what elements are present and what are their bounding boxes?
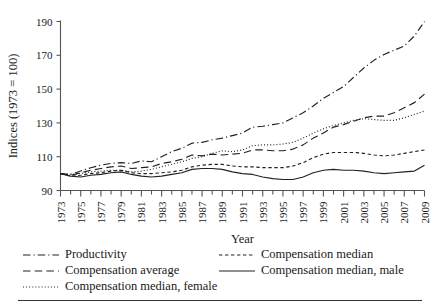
x-tick-label: 1983 [156, 201, 168, 224]
y-axis-title: Indices (1973 = 100) [6, 54, 20, 159]
y-tick-label: 190 [36, 16, 53, 28]
legend-swatch-icon [218, 249, 256, 261]
legend-item-label: Compensation average [65, 264, 179, 277]
y-tick-label: 130 [36, 117, 53, 129]
legend-item[interactable]: Compensation median [218, 247, 432, 262]
legend-item-label: Compensation median [261, 248, 373, 261]
footer-rule [18, 300, 422, 301]
x-tick-label: 1997 [297, 201, 309, 224]
series-line-compensation-average [61, 94, 425, 175]
legend-item-label: Compensation median, male [261, 264, 404, 277]
x-tick-label: 1995 [277, 201, 289, 224]
x-tick-label: 1993 [257, 201, 269, 224]
legend-item-label: Compensation median, female [65, 280, 217, 293]
x-tick-label: 2001 [338, 202, 350, 224]
x-tick-label: 2007 [398, 201, 410, 224]
legend-item-label: Productivity [65, 248, 127, 261]
y-tick-label: 110 [36, 151, 53, 163]
x-tick-label: 1989 [216, 201, 228, 224]
legend-column-right: Compensation medianCompensation median, … [218, 247, 432, 279]
x-tick-label: 1975 [75, 201, 87, 224]
legend-item[interactable]: Productivity [22, 247, 232, 262]
x-axis-title: Year [231, 232, 255, 246]
x-tick-label: 2003 [358, 201, 370, 224]
legend-item[interactable]: Compensation median, male [218, 263, 432, 278]
x-tick-label: 1979 [115, 201, 127, 224]
legend-swatch-icon [218, 265, 256, 277]
x-tick-label: 2005 [378, 201, 390, 224]
x-tick-label: 1977 [95, 201, 107, 224]
legend-swatch-icon [22, 249, 60, 261]
y-tick-label: 150 [36, 83, 53, 95]
series-line-productivity [61, 22, 425, 175]
legend-swatch-icon [22, 281, 60, 293]
legend-swatch-icon [22, 265, 60, 277]
x-tick-label: 1991 [237, 202, 249, 224]
x-tick-label: 1985 [176, 201, 188, 224]
legend-column-left: ProductivityCompensation averageCompensa… [22, 247, 232, 295]
legend-item[interactable]: Compensation median, female [22, 279, 232, 294]
x-tick-label: 1973 [55, 201, 67, 224]
x-tick-label: 2009 [419, 201, 431, 224]
series-line-compensation-median-female [61, 111, 425, 174]
legend-item[interactable]: Compensation average [22, 263, 232, 278]
y-tick-label: 90 [42, 185, 54, 197]
x-tick-label: 1987 [196, 201, 208, 224]
x-tick-label: 1999 [317, 201, 329, 224]
series-line-compensation-median-male [61, 165, 425, 179]
chart-figure: 9011013015017019019731975197719791981198… [0, 0, 434, 306]
y-tick-label: 170 [36, 49, 53, 61]
chart-legend: ProductivityCompensation averageCompensa… [0, 247, 434, 306]
x-tick-label: 1981 [135, 202, 147, 224]
